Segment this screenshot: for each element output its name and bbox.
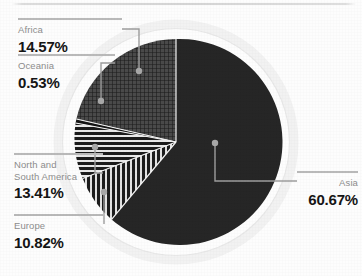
callout-label-americas-line1: North and [14,159,103,171]
leader-dot-africa [136,68,142,74]
callout-value-asia: 60.67% [297,192,358,207]
callout-rule [18,18,122,20]
callout-value-americas: 13.41% [14,185,103,200]
callout-value-oceania: 0.53% [18,75,115,90]
leader-dot-asia [212,140,218,146]
callout-label-asia: Asia [297,177,358,189]
chart-canvas: Africa 14.57% Oceania 0.53% North and So… [0,0,362,276]
callout-label-oceania: Oceania [18,60,115,72]
callout-oceania[interactable]: Oceania 0.53% [18,54,115,90]
callout-europe[interactable]: Europe 10.82% [14,214,104,250]
callout-label-americas-line2: South America [14,171,103,183]
callout-africa[interactable]: Africa 14.57% [18,18,122,54]
callout-value-africa: 14.57% [18,39,122,54]
callout-rule [297,171,358,173]
callout-rule [14,153,103,155]
leader-dot-americas [92,144,98,150]
callout-label-africa: Africa [18,24,122,36]
callout-rule [14,214,104,216]
callout-label-europe: Europe [14,220,104,232]
leader-dot-oceania [98,98,104,104]
callout-asia[interactable]: Asia 60.67% [297,171,358,207]
callout-americas[interactable]: North and South America 13.41% [14,153,103,200]
callout-value-europe: 10.82% [14,235,104,250]
callout-rule [18,54,115,56]
